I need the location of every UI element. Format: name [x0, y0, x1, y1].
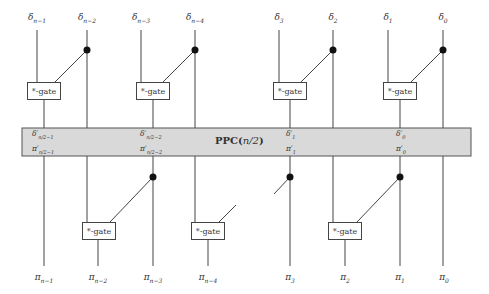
band-pi-label: π′0 — [396, 144, 406, 155]
input-label: δ1 — [383, 12, 392, 24]
star-gate: *-gate — [136, 82, 170, 100]
band-pi-label: π′n/2−2 — [140, 144, 162, 155]
output-label: π2 — [340, 272, 350, 284]
junction-dot — [192, 47, 199, 54]
output-label: πn−3 — [144, 272, 163, 284]
ppc-label: PPC(n/2) — [215, 135, 264, 146]
junction-dot — [150, 174, 157, 181]
output-label: π0 — [439, 272, 449, 284]
output-label: πn−1 — [35, 272, 54, 284]
star-gate: *-gate — [27, 82, 61, 100]
output-label: π1 — [395, 272, 405, 284]
star-gate: *-gate — [383, 82, 417, 100]
input-label: δ0 — [438, 12, 447, 24]
junction-dot — [440, 47, 447, 54]
junction-dot — [330, 47, 337, 54]
input-label: δn−2 — [78, 12, 96, 24]
star-gate: *-gate — [273, 82, 307, 100]
star-gate: *-gate — [82, 222, 116, 240]
input-label: δn−3 — [132, 12, 150, 24]
star-gate: *-gate — [328, 222, 362, 240]
band-delta-label: δ′1 — [286, 129, 295, 140]
junction-dot — [84, 47, 91, 54]
input-label: δn−4 — [186, 12, 204, 24]
band-delta-label: δ′n/2−1 — [32, 129, 54, 140]
band-pi-label: π′1 — [286, 144, 296, 155]
prefix-circuit-diagram — [0, 0, 489, 294]
band-pi-label: π′n/2−1 — [32, 144, 54, 155]
output-label: π3 — [285, 272, 295, 284]
band-delta-label: δ′n/2−2 — [140, 129, 162, 140]
input-label: δ2 — [328, 12, 337, 24]
input-label: δ3 — [274, 12, 283, 24]
output-label: πn−4 — [199, 272, 218, 284]
junction-dot — [287, 174, 294, 181]
star-gate: *-gate — [191, 222, 225, 240]
junction-dot — [397, 174, 404, 181]
output-label: πn−2 — [89, 272, 108, 284]
input-label: δn−1 — [28, 12, 46, 24]
band-delta-label: δ′0 — [396, 129, 405, 140]
